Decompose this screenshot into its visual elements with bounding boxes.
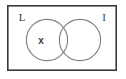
set-circle-right (59, 19, 100, 60)
set-circle-left (26, 19, 67, 60)
venn-diagram-figure: L I x (0, 0, 126, 79)
set-label-right: I (102, 11, 106, 23)
venn-diagram-canvas: L I x (0, 0, 126, 79)
set-label-left: L (19, 11, 26, 23)
element-marker-x: x (38, 35, 44, 46)
